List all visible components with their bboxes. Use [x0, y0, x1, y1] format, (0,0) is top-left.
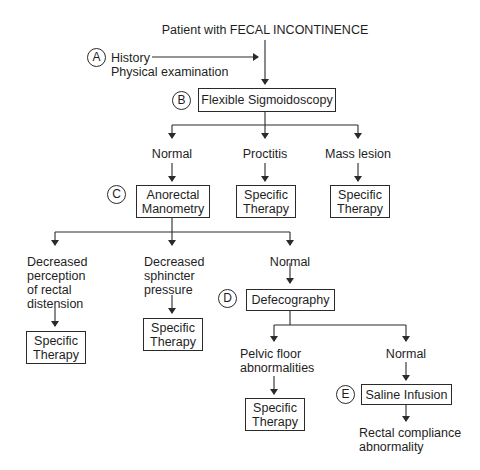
- proctitis-specific-therapy-box: Specific Therapy: [236, 185, 296, 218]
- specific-label: Specific: [34, 334, 78, 348]
- outcome-manometry-normal: Normal: [270, 255, 310, 269]
- therapy-label: Therapy: [337, 202, 383, 216]
- step-marker-d: D: [218, 289, 237, 308]
- line: of rectal: [27, 283, 87, 297]
- line: Decreased: [144, 255, 204, 269]
- flexible-sigmoidoscopy-label: Flexible Sigmoidoscopy: [201, 93, 332, 107]
- outcome-normal: Normal: [152, 147, 192, 161]
- line: Pelvic floor: [240, 347, 314, 361]
- therapy-label: Therapy: [243, 202, 289, 216]
- outcome-decreased-perception: Decreased perception of rectal distensio…: [27, 255, 87, 311]
- line: Rectal compliance: [359, 426, 461, 440]
- line: abnormalities: [240, 361, 314, 375]
- mass-lesion-specific-therapy-box: Specific Therapy: [330, 185, 390, 218]
- outcome-decreased-sphincter-pressure: Decreased sphincter pressure: [144, 255, 204, 297]
- anorectal-label: Anorectal: [147, 188, 200, 202]
- defecography-box: Defecography: [246, 289, 335, 311]
- specific-label: Specific: [253, 401, 297, 415]
- outcome-rectal-compliance-abnormality: Rectal compliance abnormality: [359, 426, 461, 454]
- step-marker-a: A: [87, 48, 106, 67]
- line: distension: [27, 297, 87, 311]
- step-marker-e: E: [336, 385, 355, 404]
- manometry-label: Manometry: [142, 202, 205, 216]
- specific-label: Specific: [244, 188, 288, 202]
- outcome-defecography-normal: Normal: [386, 347, 426, 361]
- specific-label: Specific: [151, 321, 195, 335]
- line: abnormality: [359, 440, 461, 454]
- line: Decreased: [27, 255, 87, 269]
- line: sphincter: [144, 269, 204, 283]
- flexible-sigmoidoscopy-box: Flexible Sigmoidoscopy: [198, 88, 336, 112]
- therapy-label: Therapy: [33, 348, 79, 362]
- specific-label: Specific: [338, 188, 382, 202]
- saline-infusion-label: Saline Infusion: [365, 388, 447, 402]
- therapy-label: Therapy: [150, 335, 196, 349]
- diagram-title: Patient with FECAL INCONTINENCE: [162, 23, 369, 37]
- line: pressure: [144, 283, 204, 297]
- outcome-mass-lesion: Mass lesion: [325, 147, 391, 161]
- saline-infusion-box: Saline Infusion: [361, 384, 452, 405]
- history-label: History: [111, 51, 150, 65]
- outcome-proctitis: Proctitis: [243, 147, 287, 161]
- therapy-label: Therapy: [252, 415, 298, 429]
- pelvic-specific-therapy-box: Specific Therapy: [245, 398, 305, 431]
- anorectal-manometry-box: Anorectal Manometry: [136, 185, 210, 218]
- step-marker-c: C: [107, 185, 126, 204]
- outcome-pelvic-floor-abnormalities: Pelvic floor abnormalities: [240, 347, 314, 375]
- perception-specific-therapy-box: Specific Therapy: [26, 331, 86, 364]
- step-marker-b: B: [172, 91, 191, 110]
- line: perception: [27, 269, 87, 283]
- defecography-label: Defecography: [252, 293, 330, 307]
- sphincter-specific-therapy-box: Specific Therapy: [143, 318, 203, 351]
- physical-exam-label: Physical examination: [111, 65, 228, 79]
